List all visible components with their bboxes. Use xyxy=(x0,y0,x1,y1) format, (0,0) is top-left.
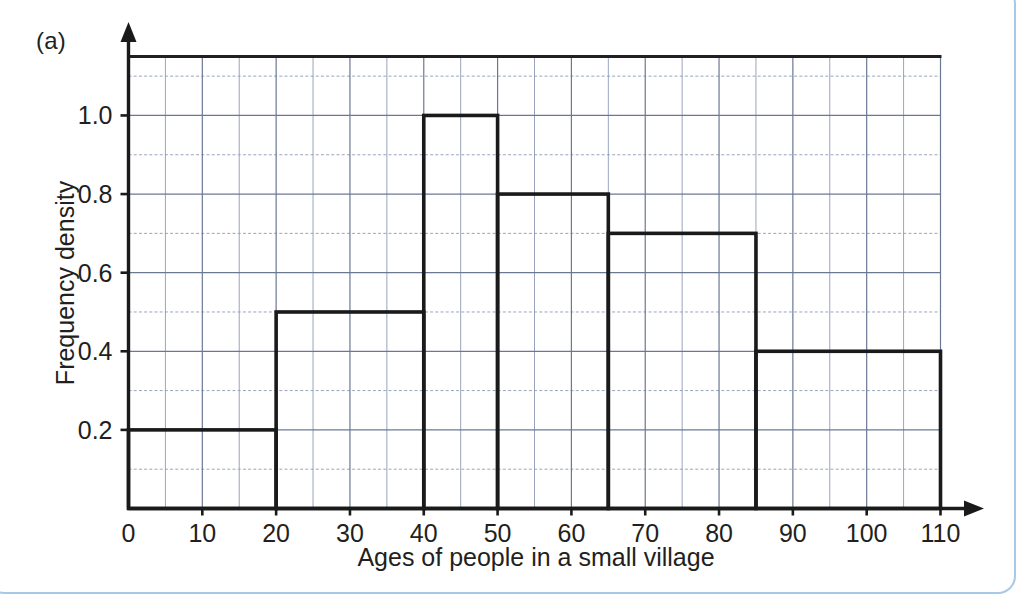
y-axis-tick-label: 0.4 xyxy=(78,337,113,365)
x-axis-tick-label: 110 xyxy=(921,519,961,547)
figure-page: (a) 0102030405060708090100110 0.20.40.60… xyxy=(0,0,1030,614)
y-axis-tick-label: 1.0 xyxy=(78,101,113,129)
x-axis-tick-label: 100 xyxy=(846,519,888,547)
x-axis-title: Ages of people in a small village xyxy=(357,543,714,571)
x-axis-tick-label: 20 xyxy=(262,519,290,547)
y-axis-tick-labels: 0.20.40.60.81.0 xyxy=(78,101,113,443)
y-axis-tick-label: 0.8 xyxy=(78,180,113,208)
y-axis-tick-label: 0.6 xyxy=(78,259,113,287)
chart-svg: 0102030405060708090100110 0.20.40.60.81.… xyxy=(0,0,1030,614)
x-axis-arrowhead xyxy=(964,501,984,517)
y-axis-tick-label: 0.2 xyxy=(78,416,113,444)
x-axis-tick-label: 0 xyxy=(122,519,136,547)
x-axis-tick-label: 90 xyxy=(779,519,807,547)
y-axis-title: Frequency density xyxy=(51,180,79,385)
y-axis-arrowhead xyxy=(121,22,137,42)
histogram-chart: 0102030405060708090100110 0.20.40.60.81.… xyxy=(0,0,1030,614)
axes xyxy=(121,22,985,517)
x-axis-tick-label: 10 xyxy=(188,519,216,547)
